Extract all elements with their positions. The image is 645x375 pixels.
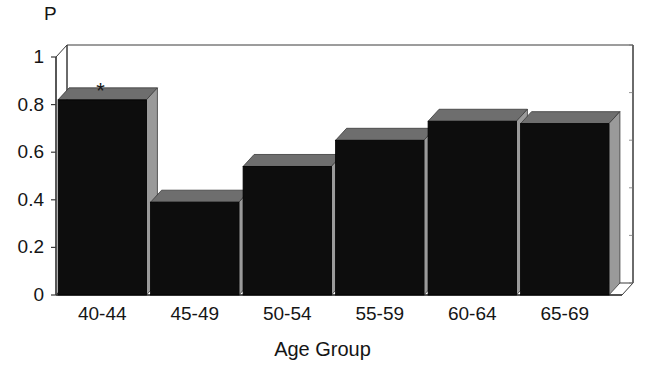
bar	[58, 88, 157, 295]
x-axis-tick-label: 55-59	[330, 303, 430, 325]
x-axis-title: Age Group	[0, 338, 645, 360]
bar	[336, 128, 435, 295]
bar	[151, 190, 250, 295]
bar	[243, 154, 342, 295]
bar-chart: P 00.20.40.60.81 * 40-4445-4950-5455-596…	[0, 0, 645, 375]
x-axis-tick-label: 60-64	[422, 303, 522, 325]
x-axis-tick-labels: 40-4445-4950-5455-5960-6465-69	[0, 303, 645, 333]
bar	[521, 112, 620, 295]
x-axis-tick-label: 40-44	[52, 303, 152, 325]
bar	[428, 109, 527, 295]
significance-asterisk: *	[96, 80, 105, 102]
x-axis-tick-label: 45-49	[145, 303, 245, 325]
x-axis-tick-label: 50-54	[237, 303, 337, 325]
x-axis-tick-label: 65-69	[515, 303, 615, 325]
